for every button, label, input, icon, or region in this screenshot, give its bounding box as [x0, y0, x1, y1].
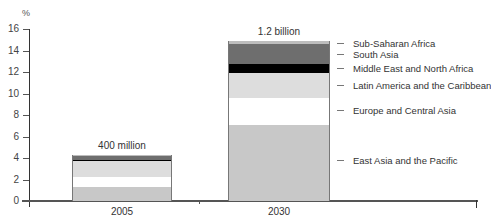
y-tick-mark: [23, 94, 29, 95]
bar-2030: [228, 41, 330, 201]
bar-segment-sub-saharan-africa: [229, 41, 329, 44]
y-tick-mark: [23, 180, 29, 181]
legend-item-europe-central-asia: Europe and Central Asia: [337, 105, 456, 116]
legend-item-south-asia: South Asia: [337, 49, 398, 60]
y-tick-label: 4: [0, 152, 19, 163]
y-axis-unit: %: [22, 8, 30, 18]
legend-item-latin-america-caribbean: Latin America and the Caribbean: [337, 80, 491, 91]
bar-segment-south-asia: [73, 156, 171, 160]
x-category-2005: 2005: [72, 206, 172, 217]
y-tick-label: 2: [0, 174, 19, 185]
bar-segment-middle-east-and-north-africa: [73, 160, 171, 161]
bar-total-label-2030: 1.2 billion: [228, 26, 330, 37]
bar-2005: [72, 155, 172, 201]
x-category-2030: 2030: [228, 206, 330, 217]
y-tick-label: 12: [0, 66, 19, 77]
bar-segment-east-asia-and-the-pacific: [229, 125, 329, 201]
bar-segment-latin-america-and-the-caribbean: [229, 73, 329, 98]
legend-leader-line: [337, 85, 344, 86]
bar-total-label-2005: 400 million: [72, 140, 172, 151]
y-tick-label: 8: [0, 109, 19, 120]
y-tick-mark: [23, 115, 29, 116]
y-tick-mark: [23, 158, 29, 159]
legend-label: Latin America and the Caribbean: [353, 80, 491, 91]
legend-leader-line: [337, 54, 344, 55]
x-axis-end-tick: [476, 200, 477, 208]
y-tick-label: 10: [0, 88, 19, 99]
bar-segment-sub-saharan-africa: [73, 155, 171, 156]
legend-label: Europe and Central Asia: [353, 105, 456, 116]
bar-segment-south-asia: [229, 44, 329, 64]
legend-leader-line: [337, 110, 344, 111]
y-tick-mark: [23, 72, 29, 73]
legend-item-middle-east-north-africa: Middle East and North Africa: [337, 63, 473, 74]
bar-segment-east-asia-and-the-pacific: [73, 187, 171, 201]
x-axis-mid-tick: [199, 200, 200, 204]
legend-leader-line: [337, 43, 344, 44]
y-tick-mark: [23, 29, 29, 30]
y-axis: [29, 29, 30, 207]
y-tick-label: 6: [0, 131, 19, 142]
y-tick-mark: [23, 137, 29, 138]
bar-segment-europe-and-central-asia: [73, 177, 171, 187]
legend-label: South Asia: [353, 49, 398, 60]
y-tick-label: 0: [0, 195, 19, 206]
legend-label: East Asia and the Pacific: [353, 155, 458, 166]
legend-leader-line: [337, 160, 344, 161]
y-tick-label: 16: [0, 23, 19, 34]
bar-segment-middle-east-and-north-africa: [229, 64, 329, 73]
bar-segment-europe-and-central-asia: [229, 98, 329, 125]
legend-label: Middle East and North Africa: [353, 63, 473, 74]
legend-label: Sub-Saharan Africa: [353, 38, 435, 49]
y-tick-label: 14: [0, 45, 19, 56]
y-tick-mark: [23, 51, 29, 52]
legend-item-sub-saharan-africa: Sub-Saharan Africa: [337, 38, 435, 49]
legend-leader-line: [337, 68, 344, 69]
legend-item-east-asia-pacific: East Asia and the Pacific: [337, 155, 458, 166]
bar-segment-latin-america-and-the-caribbean: [73, 161, 171, 177]
